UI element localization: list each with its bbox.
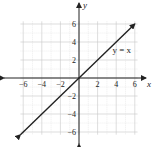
svg-text:−6: −6 — [67, 128, 76, 137]
svg-text:2: 2 — [72, 56, 76, 65]
svg-text:4: 4 — [72, 38, 76, 47]
svg-text:−4: −4 — [38, 80, 47, 89]
svg-text:−2: −2 — [56, 80, 65, 89]
svg-text:4: 4 — [114, 80, 118, 89]
x-axis-label: x — [146, 79, 151, 89]
equation-label: y = x — [112, 45, 131, 55]
svg-text:−6: −6 — [19, 80, 28, 89]
y-axis-label: y — [82, 0, 87, 10]
coordinate-plane: −6−4−2246−6−4−2246 x y y = x — [0, 0, 154, 147]
svg-text:−2: −2 — [67, 92, 76, 101]
svg-text:6: 6 — [133, 80, 137, 89]
svg-text:6: 6 — [72, 20, 76, 29]
svg-text:−4: −4 — [67, 110, 76, 119]
svg-text:2: 2 — [96, 80, 100, 89]
